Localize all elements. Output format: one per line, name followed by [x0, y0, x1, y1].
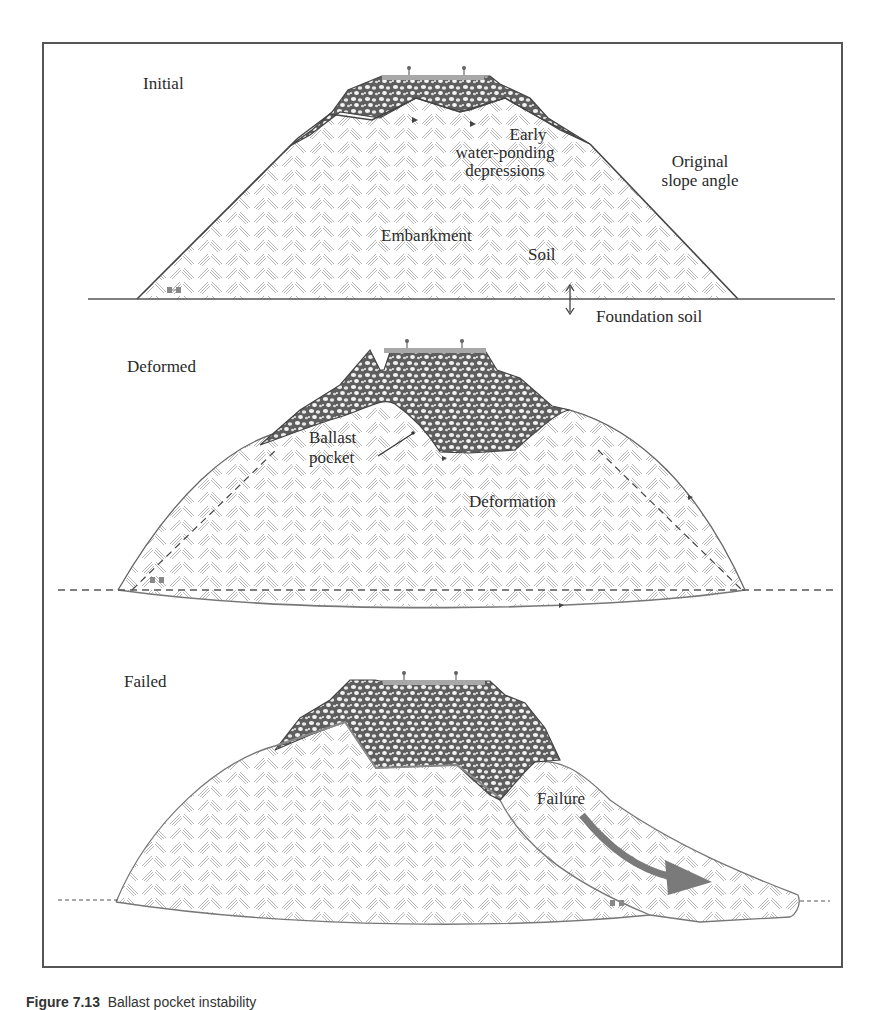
label-depressions: depressions	[440, 161, 570, 181]
label-soil: Soil	[528, 245, 555, 265]
label-embankment: Embankment	[381, 226, 472, 246]
label-failure: Failure	[537, 789, 585, 809]
panel-failed	[58, 672, 830, 925]
label-original: Original	[640, 152, 760, 172]
sleeper	[382, 75, 484, 80]
sleeper	[384, 348, 486, 353]
panel-title-failed: Failed	[124, 672, 167, 692]
label-deformation: Deformation	[469, 492, 556, 512]
embankment-soil	[137, 98, 738, 299]
label-slope-angle: slope angle	[640, 171, 760, 191]
sleeper	[383, 680, 485, 685]
label-early: Early	[468, 125, 588, 145]
label-foundation-soil: Foundation soil	[596, 307, 702, 327]
rail-icon	[408, 67, 466, 75]
rail-icon	[403, 672, 458, 680]
caption-text: Ballast pocket instability	[108, 994, 257, 1010]
label-ballast: Ballast	[309, 428, 356, 448]
label-pocket: pocket	[309, 448, 354, 468]
panel-deformed	[58, 340, 835, 608]
panel-title-initial: Initial	[143, 74, 184, 94]
caption-number: Figure 7.13	[26, 994, 100, 1010]
label-water-ponding: water-ponding	[430, 143, 580, 163]
panel-title-deformed: Deformed	[127, 357, 196, 377]
figure-caption: Figure 7.13 Ballast pocket instability	[26, 994, 256, 1010]
rail-icon	[406, 340, 464, 348]
